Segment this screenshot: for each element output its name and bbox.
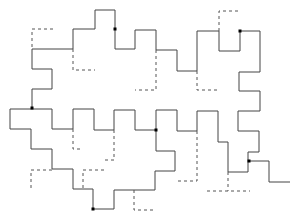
solid-path <box>249 161 290 182</box>
dashed-path <box>73 129 82 149</box>
dashed-path <box>134 190 155 210</box>
solid-path-group <box>10 10 290 209</box>
node-dot <box>239 30 242 33</box>
maze-diagram <box>0 0 297 219</box>
node-dot <box>92 208 95 211</box>
dashed-path <box>175 131 197 181</box>
dashed-path <box>197 71 219 90</box>
solid-path <box>10 10 260 209</box>
dashed-path <box>104 130 114 160</box>
dashed-path <box>83 170 104 190</box>
dashed-path <box>32 29 53 49</box>
dashed-path <box>31 170 52 190</box>
node-dot <box>114 28 117 31</box>
dashed-path <box>135 50 156 90</box>
solid-path <box>32 49 52 109</box>
node-dot <box>248 160 251 163</box>
node-dot <box>155 129 158 132</box>
node-dot <box>31 107 34 110</box>
dashed-path <box>73 49 95 70</box>
dashed-path <box>219 11 240 31</box>
